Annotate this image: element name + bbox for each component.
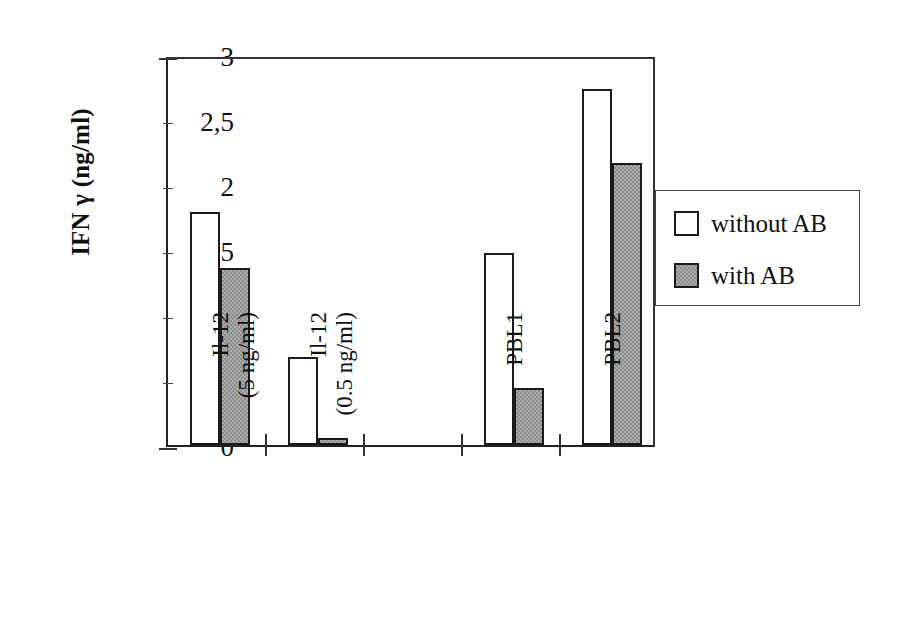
legend-item-with-ab: with AB: [674, 263, 795, 288]
x-category-line1: PBL1: [502, 312, 527, 366]
y-axis-title: IFN γ (ng/ml): [58, 12, 104, 352]
legend-item-without-ab: without AB: [674, 211, 827, 236]
legend-swatch-open-icon: [674, 211, 699, 236]
x-category-line1: Il-12: [208, 312, 233, 357]
x-category-label-il12-5: Il-12 (5 ng/ml): [208, 312, 260, 462]
legend-swatch-filled-icon: [674, 263, 699, 288]
legend: without AB with AB: [655, 190, 860, 306]
x-category-label-pbl1: PBL1: [502, 312, 528, 462]
x-category-line2: (0.5 ng/ml): [332, 312, 358, 462]
x-category-line2: (5 ng/ml): [234, 312, 260, 462]
legend-label-with-ab: with AB: [711, 263, 795, 288]
legend-label-without-ab: without AB: [711, 211, 827, 236]
y-axis-title-text: IFN γ (ng/ml): [67, 108, 94, 256]
x-category-label-pbl2: PBL2: [600, 312, 626, 462]
chart-figure: IFN γ (ng/ml) 3 2,5 2 1,5 1 0,5 0: [0, 0, 898, 626]
x-category-line1: Il-12: [306, 312, 331, 357]
y-tick-0: [159, 448, 177, 450]
x-category-line1: PBL2: [600, 312, 625, 366]
x-category-label-il12-05: Il-12 (0.5 ng/ml): [306, 312, 358, 462]
